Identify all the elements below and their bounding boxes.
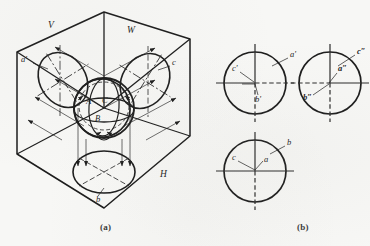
label-a-top: a: [264, 154, 268, 164]
label-point-b: B: [95, 113, 100, 123]
label-plane-v: V: [48, 20, 55, 30]
label-c-double-prime-side: c″: [357, 46, 365, 56]
plane-fold-lines: [17, 108, 190, 154]
label-a-prime-iso: a': [21, 54, 27, 64]
label-b-top: b: [287, 137, 291, 147]
panel-b-labels: a' c' b' c″ a″ b″ b c a: [232, 46, 365, 164]
projection-rays-w: [104, 48, 180, 140]
label-a-double-prime-side: a″: [338, 63, 347, 73]
label-c-prime-front: c': [232, 63, 238, 73]
label-b-iso: b: [96, 194, 100, 204]
front-view-leader-c-prime: [240, 72, 254, 82]
technical-drawing-figure: V W H a' c b A C B: [0, 0, 370, 246]
label-b-prime-front: b': [255, 94, 261, 104]
label-plane-w: W: [127, 25, 136, 35]
front-view-group: [216, 44, 294, 122]
label-b-double-prime-side: b″: [303, 92, 312, 102]
label-a-prime-front: a': [290, 49, 296, 59]
top-view-leader-c: [238, 161, 255, 170]
label-plane-h: H: [159, 169, 168, 179]
projection-rays-v: [28, 47, 104, 140]
top-view-group: [216, 132, 294, 210]
caption-panel-b: (b): [297, 222, 309, 232]
label-point-a: A: [85, 96, 92, 106]
label-c-top: c: [232, 152, 236, 162]
top-view-leader-a: [255, 161, 263, 170]
caption-panel-a: (a): [100, 222, 111, 232]
top-view-leader-b: [270, 146, 285, 154]
label-point-c: C: [102, 95, 108, 105]
sphere-solid: [70, 75, 134, 140]
side-view-leader-b-double-prime: [313, 84, 329, 95]
panel-a-labels: V W H a' c b A C B: [21, 20, 176, 204]
label-c-iso: c: [172, 57, 176, 67]
